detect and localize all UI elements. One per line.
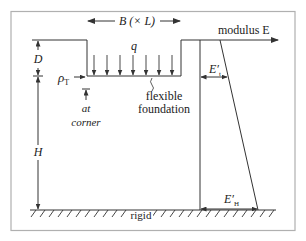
settlement-label: ρT: [57, 70, 69, 87]
uniform-load-arrows: [94, 55, 172, 75]
figure-frame: [11, 12, 295, 231]
modulus-bottom-label: E′H: [223, 192, 239, 208]
foundation-label-line1: flexible: [146, 89, 183, 103]
rigid-base-label: rigid: [131, 209, 152, 221]
load-label: q: [131, 39, 137, 53]
at-label: at: [82, 102, 92, 114]
foundation-label-line2: foundation: [138, 102, 190, 116]
modulus-profile-line: [220, 40, 258, 210]
depth-label: D: [33, 52, 43, 66]
width-label: B (× L): [119, 14, 155, 28]
thickness-label: H: [33, 145, 44, 159]
foundation-settlement-diagram: modulus E B (× L) q D H ρT at corner fle…: [0, 0, 306, 241]
modulus-axis-label: modulus E: [218, 23, 270, 37]
modulus-top-label: E′t: [208, 62, 221, 78]
corner-label: corner: [71, 116, 101, 128]
